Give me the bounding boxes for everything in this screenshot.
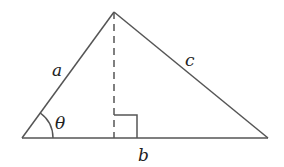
label-a: a [52,60,62,80]
right-angle-marker [114,115,137,138]
triangle-diagram: a c b θ [0,0,284,167]
side-a-line [22,12,114,138]
angle-theta-arc [40,113,53,138]
label-b: b [138,145,149,165]
label-c: c [185,50,195,70]
label-theta: θ [55,113,65,133]
